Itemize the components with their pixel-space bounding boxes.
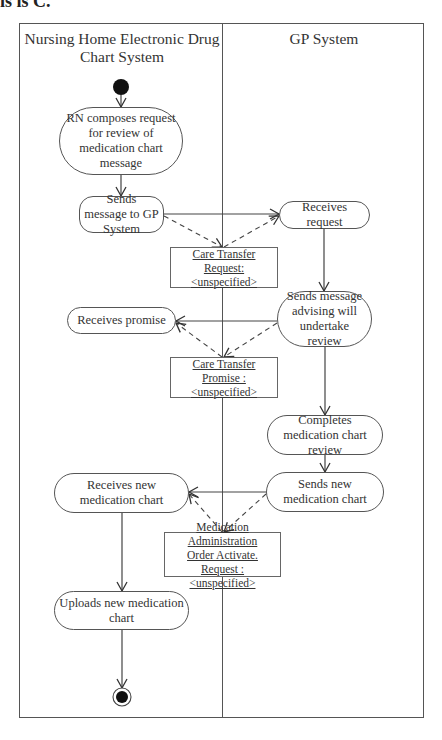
action-receives-request: Receives request [279,201,370,229]
object-line: Care Transfer [193,247,256,261]
action-completes-medication-chart-review: Completes medication chart review [267,415,383,455]
action-sends-advising-review: Sends message advising will undertake re… [277,291,372,347]
object-care-transfer-request: Care Transfer Request: <unspecified> [170,247,278,288]
object-line: Medication Administration [168,520,277,548]
action-receives-promise: Receives promise [67,307,176,334]
edge-dashed-ctr-to-receives [224,216,279,247]
initial-node-icon [113,79,129,95]
object-medication-administration-order: Medication Administration Order Activate… [164,532,281,577]
action-rn-composes-request: RN composes request for review of medica… [59,107,183,175]
final-node-icon [113,688,131,706]
action-sends-message-to-gp: Sends message to GP System [79,196,164,233]
object-line: Care Transfer [193,357,256,371]
edge-dashed-sends-to-ctr [164,216,222,247]
action-receives-new-medication-chart: Receives new medication chart [54,473,189,513]
object-care-transfer-promise: Care Transfer Promise : <unspecified> [170,357,278,398]
action-uploads-new-medication-chart: Uploads new medication chart [54,591,189,630]
edge-dashed-advising-to-ctp [224,323,277,357]
edge-dashed-ctp-to-promise [176,323,222,357]
action-sends-new-medication-chart: Sends new medication chart [266,472,384,512]
object-line: Request : <unspecified> [168,562,277,590]
object-line: Order Activate. [187,548,258,562]
object-line: Request: <unspecified> [174,261,274,289]
object-line: Promise : <unspecified> [174,371,274,399]
